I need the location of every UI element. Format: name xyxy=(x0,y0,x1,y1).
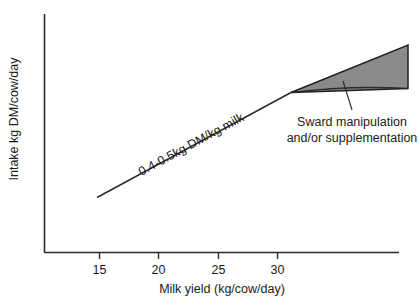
y-axis-title: Intake kg DM/cow/day xyxy=(7,57,21,181)
x-tick-label-15: 15 xyxy=(93,263,107,277)
supplementation-wedge xyxy=(291,45,408,93)
chart-figure: 15 20 25 30 Milk yield (kg/cow/day) Inta… xyxy=(0,0,420,304)
callout-line-2: and/or supplementation xyxy=(287,131,418,145)
slope-label: 0.4-0.5kg DM/kg milk xyxy=(136,110,247,179)
x-tick-label-30: 30 xyxy=(271,263,285,277)
x-tick-label-20: 20 xyxy=(152,263,166,277)
x-tick-label-25: 25 xyxy=(212,263,226,277)
x-axis-title: Milk yield (kg/cow/day) xyxy=(159,282,285,296)
chart-canvas: 15 20 25 30 Milk yield (kg/cow/day) Inta… xyxy=(0,0,420,304)
callout-line-1: Sward manipulation xyxy=(297,115,407,129)
